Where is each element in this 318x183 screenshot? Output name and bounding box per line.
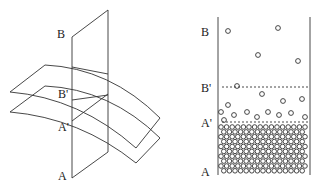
packed-particle [303, 144, 308, 149]
packed-particle [264, 164, 269, 169]
packed-particle [233, 139, 238, 144]
packed-particle [303, 164, 308, 169]
packed-particle [300, 169, 305, 174]
packed-particle [303, 134, 308, 139]
packed-particle [286, 164, 291, 169]
packed-particle [255, 169, 260, 174]
particle [245, 110, 250, 115]
packed-particle [292, 154, 297, 159]
packed-particle [230, 154, 235, 159]
packed-particle [294, 139, 299, 144]
packed-particle [292, 134, 297, 139]
packed-particle [250, 130, 255, 135]
packed-particle [255, 159, 260, 164]
packed-particle [224, 144, 229, 149]
packed-particle [280, 144, 285, 149]
particle [232, 113, 237, 118]
free-particles [219, 26, 308, 123]
packed-particle [269, 154, 274, 159]
packed-particle [269, 144, 274, 149]
packed-particle [219, 125, 224, 130]
packed-particle [292, 164, 297, 169]
packed-particle [266, 139, 271, 144]
particle [303, 115, 308, 120]
packed-particle [266, 169, 271, 174]
packed-particle [278, 149, 283, 154]
packed-particle [286, 154, 291, 159]
packed-particle [303, 154, 308, 159]
packed-particle [286, 134, 291, 139]
packed-particle [236, 125, 241, 130]
packed-particle [278, 159, 283, 164]
packed-particle [303, 125, 308, 130]
packed-particle [236, 144, 241, 149]
vertical-plane [72, 10, 108, 178]
packed-particle [252, 164, 257, 169]
packed-particle [222, 169, 227, 174]
packed-particle [280, 154, 285, 159]
label-A-right: A [201, 165, 210, 179]
particle [226, 103, 231, 108]
packed-particle [272, 139, 277, 144]
packed-particle [230, 164, 235, 169]
packed-particle [227, 169, 232, 174]
packed-particle [244, 130, 249, 135]
packed-particle [222, 149, 227, 154]
packed-particle [266, 130, 271, 135]
packed-particle [289, 149, 294, 154]
packed-particle [289, 169, 294, 174]
packed-particle [261, 159, 266, 164]
packed-particle [283, 149, 288, 154]
packed-particle [272, 130, 277, 135]
packed-particle [241, 134, 246, 139]
packed-particle [219, 154, 224, 159]
packed-particle [244, 169, 249, 174]
packed-particles [219, 125, 308, 173]
particle [255, 115, 260, 120]
packed-particle [250, 159, 255, 164]
packed-particle [250, 169, 255, 174]
packed-particle [272, 159, 277, 164]
packed-particle [252, 125, 257, 130]
packed-particle [275, 125, 280, 130]
packed-particle [238, 139, 243, 144]
packed-particle [261, 169, 266, 174]
packed-particle [297, 164, 302, 169]
packed-particle [269, 164, 274, 169]
packed-particle [222, 130, 227, 135]
packed-particle [233, 149, 238, 154]
packed-particle [224, 134, 229, 139]
packed-particle [258, 154, 263, 159]
packed-particle [247, 125, 252, 130]
label-A-prime-right: A' [201, 116, 212, 130]
packed-particle [289, 139, 294, 144]
packed-particle [244, 159, 249, 164]
packed-particle [286, 144, 291, 149]
packed-particle [222, 159, 227, 164]
packed-particle [238, 149, 243, 154]
packed-particle [247, 154, 252, 159]
packed-particle [280, 164, 285, 169]
packed-particle [227, 159, 232, 164]
packed-particle [233, 130, 238, 135]
packed-particle [227, 149, 232, 154]
packed-particle [258, 134, 263, 139]
packed-particle [247, 144, 252, 149]
particle [260, 92, 265, 97]
label-B-right: B [201, 25, 209, 39]
packed-particle [261, 149, 266, 154]
packed-particle [238, 159, 243, 164]
packed-particle [280, 125, 285, 130]
packed-particle [255, 130, 260, 135]
packed-particle [294, 159, 299, 164]
label-B-prime-left: B' [58, 87, 68, 101]
packed-particle [294, 169, 299, 174]
packed-particle [278, 130, 283, 135]
right-labels: B B' A' A [201, 25, 212, 179]
packed-particle [261, 139, 266, 144]
packed-particle [292, 144, 297, 149]
right-figure [218, 17, 310, 175]
packed-particle [275, 154, 280, 159]
packed-particle [258, 125, 263, 130]
particle [256, 53, 261, 58]
